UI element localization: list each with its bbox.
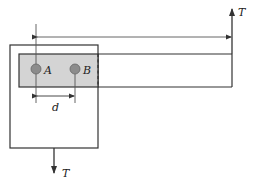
tension-top-label: T [238, 6, 247, 19]
pin-b-label: B [82, 64, 91, 77]
pin-a-label: A [43, 64, 52, 77]
spacing-label: d [52, 101, 59, 114]
tension-bottom-label: T [62, 167, 71, 180]
lap-joint-diagram: A B d T T [0, 0, 253, 183]
pin-a [31, 64, 41, 74]
pin-b [70, 64, 80, 74]
